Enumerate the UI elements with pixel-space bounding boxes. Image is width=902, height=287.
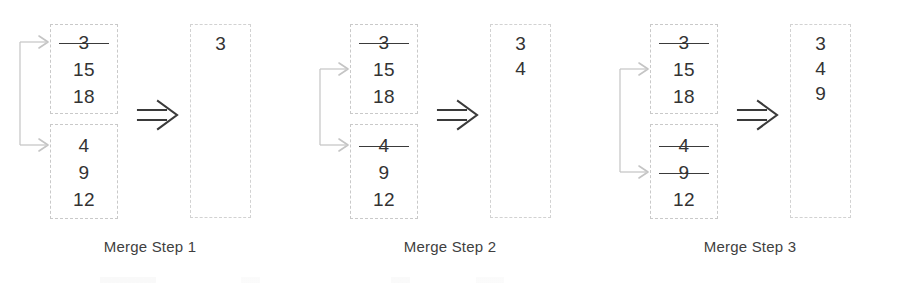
stack-cell: 18 — [51, 83, 117, 110]
input-stack-bottom: 4912 — [50, 124, 118, 219]
merge-step-panel: 315184912349Merge Step 3 — [600, 0, 900, 287]
stack-cell: 12 — [351, 186, 417, 213]
page-bottom-artifact — [100, 277, 570, 283]
stack-cell: 18 — [651, 83, 717, 110]
pointer-arrowhead-icon — [339, 63, 348, 75]
merge-steps-figure: 3151849123Merge Step 131518491234Merge S… — [0, 0, 902, 287]
input-stack-bottom: 4912 — [350, 124, 418, 219]
stack-cell: 9 — [351, 159, 417, 186]
pointer-arrowhead-icon — [339, 139, 348, 151]
output-stack: 34 — [490, 24, 551, 218]
input-stack-top: 31518 — [350, 24, 418, 114]
double-right-arrow-icon — [136, 98, 180, 134]
double-right-arrow-icon — [736, 98, 780, 134]
output-stack: 349 — [790, 24, 851, 218]
merge-step-panel: 31518491234Merge Step 2 — [300, 0, 600, 287]
stack-cell: 15 — [51, 56, 117, 83]
pointer-arrowhead-icon — [39, 139, 48, 151]
output-cell: 9 — [791, 81, 850, 106]
stack-cell: 15 — [651, 56, 717, 83]
double-right-arrow-icon — [436, 98, 480, 134]
output-cell: 4 — [791, 56, 850, 81]
output-stack: 3 — [190, 24, 251, 218]
stack-cell-consumed: 4 — [651, 132, 717, 159]
stack-cell: 4 — [51, 132, 117, 159]
merge-step-panel: 3151849123Merge Step 1 — [0, 0, 300, 287]
stack-cell-consumed: 4 — [351, 132, 417, 159]
output-cell: 3 — [191, 31, 250, 56]
merge-arrow-icon — [736, 98, 780, 134]
stack-cell-consumed: 3 — [351, 29, 417, 56]
stack-cell: 15 — [351, 56, 417, 83]
merge-arrow-icon — [136, 98, 180, 134]
pointer-arrowhead-icon — [639, 63, 648, 75]
output-cell: 4 — [491, 56, 550, 81]
stack-cell: 9 — [51, 159, 117, 186]
merge-arrow-icon — [436, 98, 480, 134]
stack-cell: 12 — [51, 186, 117, 213]
output-cell: 3 — [491, 31, 550, 56]
input-stack-bottom: 4912 — [650, 124, 718, 219]
panel-caption: Merge Step 2 — [300, 238, 600, 255]
pointer-arrowhead-icon — [39, 36, 48, 48]
output-cell: 3 — [791, 31, 850, 56]
input-stack-top: 31518 — [50, 24, 118, 114]
input-stack-top: 31518 — [650, 24, 718, 114]
stack-cell: 12 — [651, 186, 717, 213]
stack-cell-consumed: 9 — [651, 159, 717, 186]
stack-cell-consumed: 3 — [651, 29, 717, 56]
panel-caption: Merge Step 1 — [0, 238, 300, 255]
stack-cell: 18 — [351, 83, 417, 110]
pointer-arrowhead-icon — [639, 166, 648, 178]
panel-caption: Merge Step 3 — [600, 238, 900, 255]
stack-cell-consumed: 3 — [51, 29, 117, 56]
